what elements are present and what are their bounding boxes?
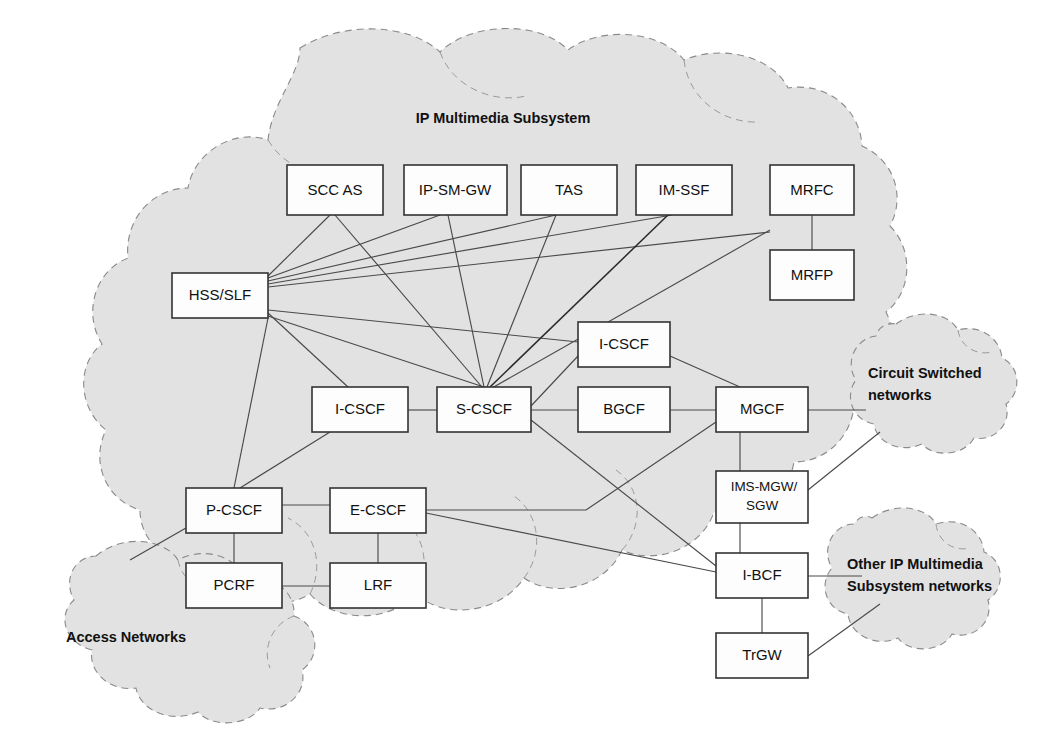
node-mrfp[interactable]: MRFP [770, 250, 854, 300]
node-tas-label: TAS [555, 181, 583, 198]
node-ims-mgw[interactable]: IMS-MGW/ SGW [716, 471, 808, 523]
node-lrf-label: LRF [364, 576, 392, 593]
node-ip-sm-gw[interactable]: IP-SM-GW [404, 165, 507, 215]
node-p-cscf-label: P-CSCF [206, 501, 262, 518]
node-hss-slf[interactable]: HSS/SLF [172, 273, 268, 318]
node-s-cscf-label: S-CSCF [456, 400, 512, 417]
node-e-cscf-label: E-CSCF [350, 501, 406, 518]
node-im-ssf-label: IM-SSF [659, 181, 710, 198]
node-i-cscf-left-label: I-CSCF [335, 400, 385, 417]
node-ims-mgw-label-line1: IMS-MGW/ [731, 479, 798, 494]
node-ip-sm-gw-label: IP-SM-GW [419, 181, 492, 198]
diagram-canvas: SCC AS IP-SM-GW TAS IM-SSF MRFC MRFP [0, 0, 1054, 734]
node-ims-mgw-label-line2: SGW [746, 498, 779, 513]
node-e-cscf[interactable]: E-CSCF [330, 488, 426, 533]
node-tas[interactable]: TAS [521, 165, 617, 215]
node-i-bcf-label: I-BCF [742, 566, 781, 583]
node-i-cscf-upper-label: I-CSCF [599, 335, 649, 352]
node-mrfc-label: MRFC [790, 181, 833, 198]
access-networks-cloud-label: Access Networks [66, 629, 186, 645]
circuit-switched-cloud-label-line2: networks [868, 387, 932, 403]
node-mgcf[interactable]: MGCF [716, 387, 808, 432]
node-mrfp-label: MRFP [791, 266, 834, 283]
node-s-cscf[interactable]: S-CSCF [437, 387, 531, 432]
node-i-cscf-upper[interactable]: I-CSCF [578, 322, 670, 367]
node-p-cscf[interactable]: P-CSCF [186, 488, 282, 533]
node-trgw[interactable]: TrGW [716, 633, 808, 678]
node-mrfc[interactable]: MRFC [770, 165, 854, 215]
ims-architecture-diagram: SCC AS IP-SM-GW TAS IM-SSF MRFC MRFP [0, 0, 1054, 734]
node-pcrf[interactable]: PCRF [186, 563, 282, 608]
node-scc-as-label: SCC AS [307, 181, 362, 198]
circuit-switched-cloud-label-line1: Circuit Switched [868, 365, 982, 381]
node-scc-as[interactable]: SCC AS [287, 165, 383, 215]
node-i-cscf-left[interactable]: I-CSCF [312, 387, 408, 432]
node-i-bcf[interactable]: I-BCF [716, 553, 808, 598]
other-ims-cloud-label-line2: Subsystem networks [847, 578, 992, 594]
node-pcrf-label: PCRF [214, 576, 255, 593]
node-bgcf-label: BGCF [603, 400, 645, 417]
node-lrf[interactable]: LRF [330, 563, 426, 608]
other-ims-cloud-label-line1: Other IP Multimedia [847, 556, 984, 572]
ims-cloud-label: IP Multimedia Subsystem [416, 110, 591, 126]
node-trgw-label: TrGW [742, 646, 782, 663]
node-bgcf[interactable]: BGCF [578, 387, 670, 432]
node-mgcf-label: MGCF [740, 400, 784, 417]
node-im-ssf[interactable]: IM-SSF [636, 165, 732, 215]
node-hss-slf-label: HSS/SLF [189, 286, 252, 303]
